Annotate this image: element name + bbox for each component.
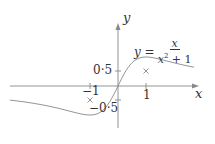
equation-fraction: x x2 + 1	[158, 38, 192, 66]
x-axis-label: x	[195, 86, 202, 101]
y-axis-label: y	[123, 10, 130, 25]
max-point-marker-icon	[144, 69, 149, 74]
equation-denominator: x2 + 1	[158, 50, 192, 66]
y-axis-arrow-icon	[116, 23, 121, 30]
equation-numerator: x	[170, 38, 180, 50]
function-graph: y x 0·5 −0·5 −1 1 y = x x2 + 1	[0, 0, 215, 144]
x-tick-label-pos1: 1	[143, 88, 151, 102]
y-tick-label-pos: 0·5	[93, 63, 112, 77]
y-tick-label-neg: −0·5	[89, 101, 118, 115]
x-tick-label-neg1: −1	[82, 84, 100, 98]
equation-lhs: y =	[134, 45, 155, 59]
equation-den-rest: + 1	[168, 53, 191, 66]
equation-label: y = x x2 + 1	[134, 38, 192, 66]
